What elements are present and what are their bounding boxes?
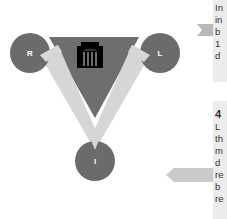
panel-2-line: b <box>215 181 227 193</box>
panel-2-line: th <box>215 133 227 145</box>
node-R-label: R <box>27 49 33 58</box>
node-L-label: L <box>158 49 163 58</box>
info-panel-2: 4 L th m d re b re <box>213 101 227 219</box>
node-L: L <box>140 33 180 73</box>
building-icon <box>77 42 103 68</box>
panel-1-line: d <box>215 50 227 62</box>
panel-1-line: In <box>215 2 227 14</box>
panel-2-line: re <box>215 169 227 181</box>
arrow-to-panel-2 <box>166 168 214 182</box>
panel-2-line: d <box>215 157 227 169</box>
panel-2-line: m <box>215 145 227 157</box>
panel-1-line: b <box>215 26 227 38</box>
panel-1-line: 1 <box>215 38 227 50</box>
node-R: R <box>10 33 50 73</box>
panel-2-heading: 4 <box>215 107 227 121</box>
panel-1-line: in <box>215 14 227 26</box>
panel-2-line: re <box>215 193 227 205</box>
panel-2-line: L <box>215 121 227 133</box>
info-panel-1: In in b 1 d <box>213 0 227 82</box>
node-I-label: I <box>94 157 96 166</box>
node-I: I <box>75 141 115 181</box>
triad-diagram: R L I <box>0 0 190 219</box>
